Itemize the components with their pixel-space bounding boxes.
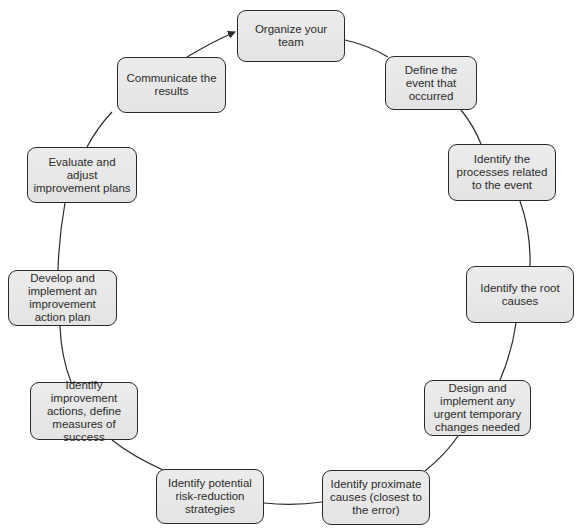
step-label: Design and implement any urgent temporar…: [429, 382, 526, 434]
step-evaluate-adjust: Evaluate and adjust improvement plans: [27, 147, 137, 203]
step-label: Define the event that occurred: [390, 64, 472, 103]
step-improvement-actions: Identify improvement actions, define mea…: [30, 382, 138, 440]
step-label: Identify proximate causes (closest to th…: [327, 478, 425, 517]
step-define-event: Define the event that occurred: [385, 56, 477, 110]
step-identify-root-causes: Identify the root causes: [466, 266, 574, 323]
step-proximate-causes: Identify proximate causes (closest to th…: [322, 470, 430, 525]
step-label: Identify the processes related to the ev…: [453, 153, 551, 192]
connector-line: [112, 440, 163, 470]
connector-line: [500, 323, 516, 380]
connector-line: [345, 40, 388, 57]
step-label: Organize your team: [242, 23, 340, 49]
step-communicate-results: Communicate the results: [117, 57, 226, 113]
step-label: Evaluate and adjust improvement plans: [32, 156, 132, 195]
connector-line: [58, 203, 65, 270]
step-label: Develop and implement an improvement act…: [13, 272, 112, 324]
step-urgent-changes: Design and implement any urgent temporar…: [424, 380, 531, 436]
connector-line: [264, 502, 322, 504]
step-risk-reduction: Identify potential risk-reduction strate…: [156, 469, 264, 524]
step-identify-processes: Identify the processes related to the ev…: [448, 144, 556, 201]
step-label: Communicate the results: [122, 72, 221, 98]
connector-line: [87, 112, 112, 147]
connector-line: [425, 436, 458, 471]
step-label: Identify potential risk-reduction strate…: [161, 477, 259, 516]
step-action-plan: Develop and implement an improvement act…: [8, 270, 117, 326]
step-label: Identify the root causes: [471, 282, 569, 308]
step-label: Identify improvement actions, define mea…: [35, 379, 133, 444]
step-organize-team: Organize your team: [237, 10, 345, 62]
connector-line: [520, 201, 530, 266]
connector-arrow: [187, 32, 235, 57]
connector-line: [60, 326, 71, 382]
connector-line: [461, 110, 481, 144]
cycle-diagram: Organize your team Define the event that…: [0, 0, 576, 532]
